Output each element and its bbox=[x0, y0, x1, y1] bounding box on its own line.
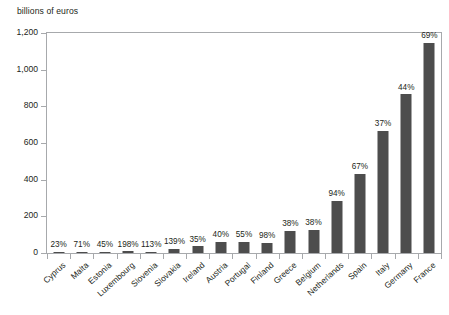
bar-rect[interactable] bbox=[238, 242, 249, 253]
bar-item[interactable]: 35% bbox=[186, 33, 209, 253]
bar-item[interactable]: 94% bbox=[325, 33, 348, 253]
bar-rect[interactable] bbox=[146, 252, 157, 254]
bar-value-label: 45% bbox=[97, 241, 113, 249]
bar-rect[interactable] bbox=[169, 249, 180, 253]
bar-value-label: 98% bbox=[259, 232, 275, 240]
y-axis-tick-label: 200 bbox=[24, 210, 38, 220]
bar-value-label: 113% bbox=[141, 241, 161, 249]
x-axis-label-text: Ireland bbox=[180, 258, 208, 285]
bar-rect[interactable] bbox=[53, 252, 64, 254]
y-axis-tick-mark bbox=[41, 253, 46, 254]
bar-value-label: 71% bbox=[74, 241, 90, 249]
bar-item[interactable]: 98% bbox=[256, 33, 279, 253]
x-axis-labels: CyprusMaltaEstoniaLuxembourgSloveniaSlov… bbox=[47, 258, 441, 315]
bar-rect[interactable] bbox=[99, 252, 110, 254]
x-axis-label: Spain bbox=[346, 258, 371, 282]
bar-item[interactable]: 40% bbox=[209, 33, 232, 253]
bar-value-label: 40% bbox=[213, 231, 229, 239]
bar-value-label: 23% bbox=[50, 241, 66, 249]
bar-item[interactable]: 113% bbox=[140, 33, 163, 253]
y-axis-tick-mark bbox=[41, 70, 46, 71]
y-axis-tick-mark bbox=[41, 33, 46, 34]
bar-rect[interactable] bbox=[192, 246, 203, 253]
bar-item[interactable]: 139% bbox=[163, 33, 186, 253]
bar-item[interactable]: 67% bbox=[348, 33, 371, 253]
y-axis-tick-label: 400 bbox=[24, 174, 38, 184]
bar-rect[interactable] bbox=[424, 43, 435, 253]
bar-rect[interactable] bbox=[76, 252, 87, 254]
bar-item[interactable]: 23% bbox=[47, 33, 70, 253]
bar-value-label: 67% bbox=[352, 163, 368, 171]
bar-rect[interactable] bbox=[308, 230, 319, 253]
bar-value-label: 55% bbox=[236, 231, 252, 239]
y-axis-tick-mark bbox=[41, 216, 46, 217]
x-axis-tick-mark bbox=[441, 254, 442, 259]
bar-value-label: 139% bbox=[164, 238, 185, 246]
bar-item[interactable]: 71% bbox=[70, 33, 93, 253]
bar-rect[interactable] bbox=[123, 251, 134, 253]
bar-value-label: 69% bbox=[421, 32, 437, 40]
bar-value-label: 38% bbox=[305, 219, 321, 227]
y-axis-tick-label: 1,000 bbox=[16, 64, 38, 74]
bar-chart: billions of euros 02004006008001,0001,20… bbox=[0, 0, 449, 315]
x-axis-label-text: France bbox=[412, 258, 440, 285]
bar-rect[interactable] bbox=[215, 242, 226, 253]
x-axis-label-text: Cyprus bbox=[41, 258, 70, 285]
y-axis-tick-label: 600 bbox=[24, 137, 38, 147]
y-axis-tick-label: 1,200 bbox=[16, 27, 38, 37]
bar-item[interactable]: 37% bbox=[371, 33, 394, 253]
bar-rect[interactable] bbox=[285, 231, 296, 253]
bar-item[interactable]: 44% bbox=[395, 33, 418, 253]
x-axis-label: France bbox=[412, 258, 440, 285]
x-axis-label: Cyprus bbox=[41, 258, 70, 285]
x-axis-label-text: Spain bbox=[346, 258, 371, 282]
bar-rect[interactable] bbox=[401, 94, 412, 253]
bar-value-label: 35% bbox=[189, 236, 205, 244]
bar-value-label: 44% bbox=[398, 84, 414, 92]
bar-rect[interactable] bbox=[262, 243, 273, 253]
bar-item[interactable]: 38% bbox=[279, 33, 302, 253]
bar-item[interactable]: 69% bbox=[418, 33, 441, 253]
y-axis-tick-label: 0 bbox=[33, 247, 38, 257]
bar-item[interactable]: 55% bbox=[232, 33, 255, 253]
bar-value-label: 198% bbox=[118, 241, 139, 249]
bar-item[interactable]: 198% bbox=[117, 33, 140, 253]
bar-item[interactable]: 45% bbox=[93, 33, 116, 253]
y-axis-tick-mark bbox=[41, 143, 46, 144]
bar-value-label: 37% bbox=[375, 120, 391, 128]
bar-rect[interactable] bbox=[354, 174, 365, 253]
y-axis-tick-mark bbox=[41, 106, 46, 107]
bar-rect[interactable] bbox=[331, 201, 342, 253]
bars-group: 23%71%45%198%113%139%35%40%55%98%38%38%9… bbox=[47, 33, 441, 253]
bar-value-label: 38% bbox=[282, 220, 298, 228]
bar-value-label: 94% bbox=[328, 190, 344, 198]
y-axis-title: billions of euros bbox=[17, 6, 78, 16]
bar-rect[interactable] bbox=[378, 131, 389, 253]
y-axis-tick-label: 800 bbox=[24, 100, 38, 110]
y-axis-tick-mark bbox=[41, 180, 46, 181]
x-axis-label: Ireland bbox=[180, 258, 208, 285]
bar-item[interactable]: 38% bbox=[302, 33, 325, 253]
